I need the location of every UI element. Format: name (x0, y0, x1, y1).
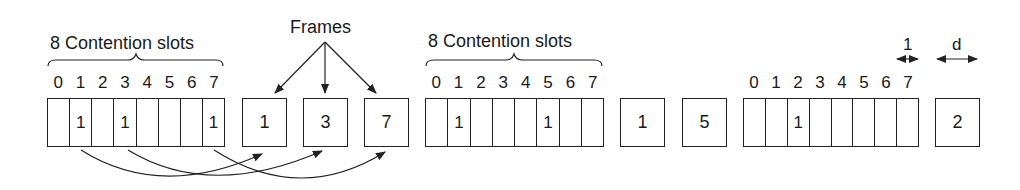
slot: 1 (203, 99, 224, 146)
frame-box: 1 (620, 98, 665, 147)
slot-index-row-group2: 0 1 2 3 4 5 6 7 (425, 74, 604, 91)
contention-slots-group1: 1 1 1 (47, 98, 225, 147)
slot (181, 99, 203, 146)
brace-group2 (426, 54, 602, 66)
slot-index: 2 (92, 74, 114, 91)
slot: 1 (70, 99, 92, 146)
slot-index: 1 (69, 74, 91, 91)
frame-box: 5 (682, 98, 727, 147)
slot (92, 99, 114, 146)
slot (560, 99, 582, 146)
slot-index: 0 (47, 74, 69, 91)
contention-slots-group3: 1 (743, 98, 919, 147)
slot (582, 99, 603, 146)
slot-index: 1 (447, 74, 469, 91)
frame-box: 1 (242, 98, 287, 147)
frame-box: 3 (303, 98, 348, 147)
slot-index: 6 (559, 74, 581, 91)
slot (493, 99, 515, 146)
slot-index: 6 (181, 74, 203, 91)
slot-index: 7 (203, 74, 225, 91)
slot (832, 99, 854, 146)
curve-slot3-to-frame3 (128, 150, 322, 175)
contention-label-group2: 8 Contention slots (428, 32, 572, 50)
slot-width-label: 1 (903, 36, 912, 53)
slot: 1 (537, 99, 559, 146)
frames-label: Frames (290, 18, 351, 36)
slot (875, 99, 897, 146)
brace-group1 (48, 54, 223, 66)
slot (744, 99, 766, 146)
arrows-layer (0, 0, 1020, 190)
slot-index: 2 (787, 74, 809, 91)
slot: 1 (114, 99, 136, 146)
slot (159, 99, 181, 146)
slot-index: 2 (470, 74, 492, 91)
slot: 1 (448, 99, 470, 146)
slot-index: 5 (537, 74, 559, 91)
slot-index: 5 (853, 74, 875, 91)
slot (48, 99, 70, 146)
frame-box: 2 (935, 98, 980, 147)
slot (897, 99, 918, 146)
slot-index: 3 (809, 74, 831, 91)
frames-arrow-1 (275, 42, 325, 93)
slot-index-row-group1: 0 1 2 3 4 5 6 7 (47, 74, 225, 91)
slot-index-row-group3: 0 1 2 3 4 5 6 7 (743, 74, 919, 91)
frame-width-label: d (952, 36, 961, 53)
slot-index: 0 (743, 74, 765, 91)
slot-index: 6 (875, 74, 897, 91)
slot-index: 3 (114, 74, 136, 91)
slot-index: 7 (897, 74, 919, 91)
slot (810, 99, 832, 146)
frame-box: 7 (364, 98, 409, 147)
slot-index: 5 (158, 74, 180, 91)
slot-index: 4 (831, 74, 853, 91)
slot-index: 7 (582, 74, 604, 91)
slot-index: 4 (515, 74, 537, 91)
slot: 1 (788, 99, 810, 146)
slot (515, 99, 537, 146)
slot (853, 99, 875, 146)
curve-slot1-to-frame1 (81, 150, 262, 176)
slot-index: 3 (492, 74, 514, 91)
slot (471, 99, 493, 146)
contention-slots-group2: 1 1 (425, 98, 604, 147)
slot (766, 99, 788, 146)
slot-index: 1 (765, 74, 787, 91)
slot-index: 4 (136, 74, 158, 91)
frames-arrow-7 (325, 42, 376, 93)
slot-index: 0 (425, 74, 447, 91)
slot (426, 99, 448, 146)
slot (137, 99, 159, 146)
contention-label-group1: 8 Contention slots (50, 34, 194, 52)
